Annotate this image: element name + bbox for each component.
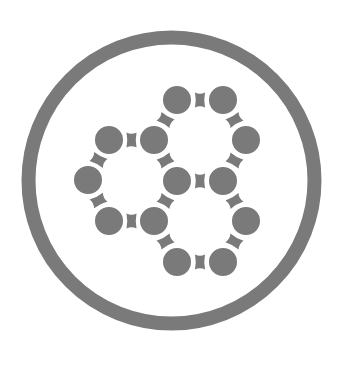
atom-icon — [231, 125, 261, 155]
bond-icon — [195, 255, 205, 270]
atom-icon — [162, 85, 192, 115]
bond-icon — [195, 93, 205, 108]
atom-icon — [73, 165, 103, 195]
atom-icon — [94, 206, 124, 236]
molecule-hexagon-ring-icon — [0, 0, 341, 366]
atom-icon — [162, 247, 192, 277]
bond-icon — [127, 133, 137, 148]
bond-icon — [195, 174, 205, 189]
atom-icon — [208, 247, 238, 277]
atom-icon — [231, 206, 261, 236]
atom-icon — [162, 166, 192, 196]
atom-icon — [94, 125, 124, 155]
atom-icon — [139, 125, 169, 155]
atom-icon — [208, 85, 238, 115]
atom-icon — [139, 206, 169, 236]
bond-icon — [127, 214, 137, 229]
atom-icon — [208, 166, 238, 196]
